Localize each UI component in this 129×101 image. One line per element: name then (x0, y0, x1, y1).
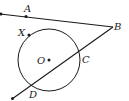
label-a: A (23, 3, 31, 14)
point-o-dot (48, 59, 51, 62)
point-a-dot (25, 15, 28, 18)
label-d: D (28, 89, 37, 100)
endpoint-bottom-dot (11, 97, 14, 100)
endpoint-left-dot (0, 13, 3, 16)
label-o: O (37, 55, 45, 66)
point-x-dot (28, 34, 31, 37)
geometry-diagram: A B X O C D (0, 0, 129, 101)
label-b: B (113, 21, 121, 32)
label-x: X (17, 27, 26, 38)
label-c: C (82, 54, 90, 65)
diagram-canvas: A B X O C D (0, 0, 129, 101)
line-ba (0, 14, 113, 27)
